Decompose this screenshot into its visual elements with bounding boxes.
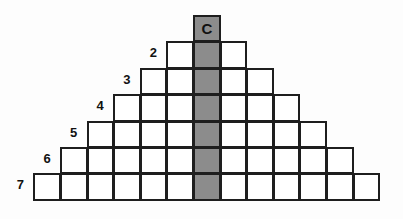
grid-cell: [166, 121, 194, 148]
grid-cell: [140, 147, 168, 174]
grid-cell: [60, 173, 88, 200]
center-column-cell: [193, 94, 221, 121]
center-column-cell: [193, 41, 221, 68]
grid-cell: [166, 147, 194, 174]
grid-cell: [246, 173, 274, 200]
center-column-cell: [193, 147, 221, 174]
grid-cell: [113, 94, 141, 121]
grid-cell: [353, 173, 381, 200]
grid-cell: [166, 173, 194, 200]
grid-cell: [220, 147, 248, 174]
grid-cell: [246, 121, 274, 148]
grid-cell: [299, 121, 327, 148]
row-label: 5: [67, 125, 81, 140]
grid-cell: [140, 121, 168, 148]
grid-cell: [246, 94, 274, 121]
grid-cell: [166, 68, 194, 95]
row-label: 3: [120, 72, 134, 87]
grid-cell: [87, 147, 115, 174]
grid-cell: [166, 41, 194, 68]
center-column-cell: C: [193, 15, 221, 42]
grid-cell: [246, 68, 274, 95]
row-label: 2: [146, 45, 160, 60]
row-label: 7: [13, 177, 27, 192]
grid-cell: [87, 173, 115, 200]
grid-cell: [326, 147, 354, 174]
row-label: 4: [93, 98, 107, 113]
grid-cell: [299, 173, 327, 200]
grid-cell: [220, 121, 248, 148]
grid-cell: [166, 94, 194, 121]
grid-cell: [33, 173, 61, 200]
grid-cell: [220, 41, 248, 68]
pyramid-grid-diagram: C234567: [0, 0, 403, 219]
grid-cell: [113, 147, 141, 174]
grid-cell: [273, 173, 301, 200]
grid-cell: [113, 173, 141, 200]
center-column-label: C: [195, 17, 219, 40]
grid-cell: [140, 173, 168, 200]
grid-cell: [273, 121, 301, 148]
grid-cell: [273, 147, 301, 174]
grid-cell: [140, 68, 168, 95]
grid-cell: [246, 147, 274, 174]
center-column-cell: [193, 121, 221, 148]
grid-cell: [113, 121, 141, 148]
grid-cell: [299, 147, 327, 174]
grid-cell: [326, 173, 354, 200]
grid-cell: [60, 147, 88, 174]
grid-cell: [220, 173, 248, 200]
center-column-cell: [193, 68, 221, 95]
grid-cell: [87, 121, 115, 148]
grid-cell: [273, 94, 301, 121]
grid-cell: [220, 68, 248, 95]
center-column-cell: [193, 173, 221, 200]
grid-cell: [220, 94, 248, 121]
row-label: 6: [40, 151, 54, 166]
grid-cell: [140, 94, 168, 121]
